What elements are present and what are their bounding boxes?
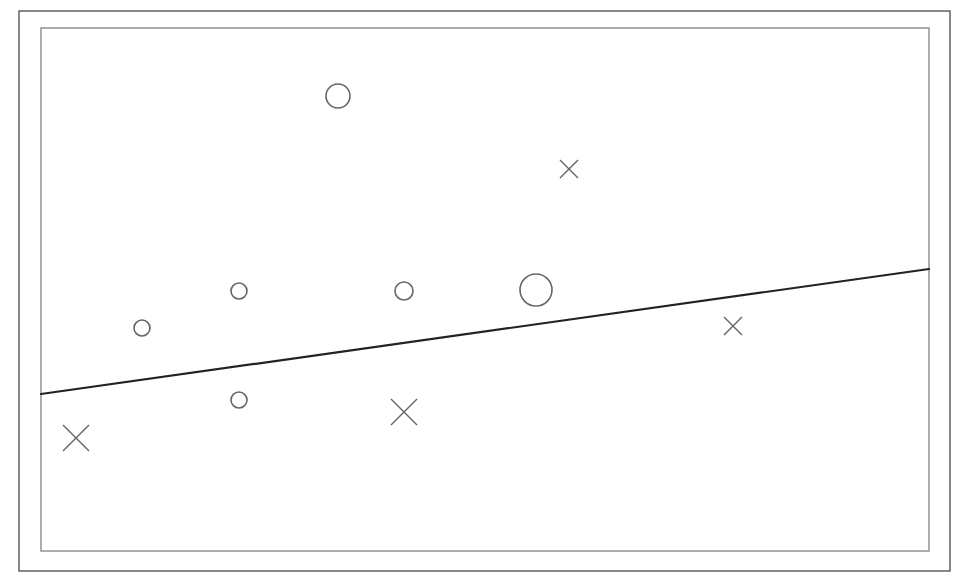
cross-marker xyxy=(391,399,417,425)
scatter-chart xyxy=(0,0,969,585)
circle-marker xyxy=(231,392,247,408)
circle-marker xyxy=(326,84,350,108)
regression-line xyxy=(41,269,929,394)
circle-marker xyxy=(134,320,150,336)
cross-marker xyxy=(560,160,578,178)
circle-marker xyxy=(395,282,413,300)
circle-marker xyxy=(231,283,247,299)
plot-area-frame xyxy=(41,28,929,551)
circle-marker xyxy=(520,274,552,306)
outer-frame xyxy=(19,11,950,571)
cross-marker xyxy=(724,317,742,335)
data-markers xyxy=(63,84,742,451)
cross-marker xyxy=(63,425,89,451)
